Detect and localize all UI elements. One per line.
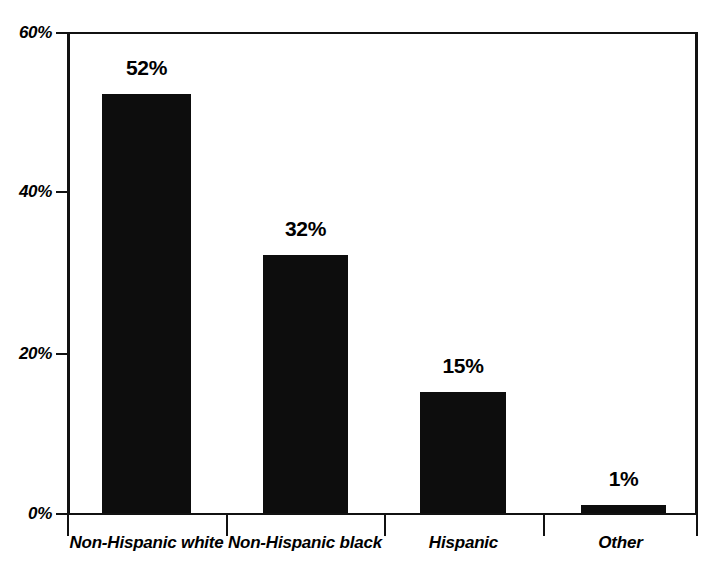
- y-tick-mark-20: [56, 353, 69, 355]
- bar-non-hispanic-white: [102, 94, 191, 513]
- x-axis-label-non-hispanic-black: Non-Hispanic black: [226, 533, 384, 553]
- bar-value-hispanic: 15%: [420, 355, 506, 376]
- bar-non-hispanic-black: [263, 255, 348, 513]
- x-axis-label-other: Other: [543, 533, 698, 553]
- bar-chart: 60% 40% 20% 0% 52% 32% 15% 1% Non-Hispan…: [0, 0, 718, 571]
- y-axis-label-0: 0%: [0, 505, 52, 522]
- x-axis-label-non-hispanic-white: Non-Hispanic white: [67, 533, 226, 553]
- y-axis-label-20: 20%: [0, 345, 52, 362]
- y-tick-mark-40: [56, 191, 69, 193]
- x-axis-label-hispanic: Hispanic: [384, 533, 543, 553]
- bar-value-other: 1%: [581, 468, 666, 489]
- y-axis-label-60: 60%: [0, 24, 52, 41]
- bar-hispanic: [420, 392, 506, 513]
- bar-other: [581, 505, 666, 513]
- y-tick-mark-60: [56, 32, 69, 34]
- y-axis-label-40: 40%: [0, 183, 52, 200]
- bar-value-non-hispanic-black: 32%: [263, 218, 348, 239]
- bar-value-non-hispanic-white: 52%: [102, 57, 191, 78]
